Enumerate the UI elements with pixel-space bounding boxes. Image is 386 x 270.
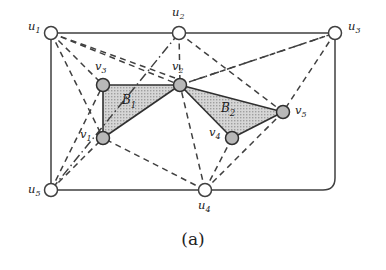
node-u2[interactable] <box>173 27 186 40</box>
dashed-edge-u4-v4 <box>205 138 232 190</box>
node-u3[interactable] <box>329 27 342 40</box>
node-labels-layer: u1u2u3u4u5v1v2v3v4v5 <box>28 5 361 214</box>
node-u4[interactable] <box>199 184 212 197</box>
node-v3[interactable] <box>97 79 110 92</box>
graph-diagram: u1u2u3u4u5v1v2v3v4v5 B1B2 (a) <box>0 0 386 270</box>
node-u5[interactable] <box>45 184 58 197</box>
node-label-u4: u4 <box>198 198 211 214</box>
dashed-edge-u5-v3 <box>51 85 103 190</box>
node-label-u2: u2 <box>172 5 185 21</box>
dashed-edge-u5-v1 <box>51 138 103 190</box>
dashed-edges-layer <box>51 33 335 190</box>
outer-cycle-path <box>51 33 335 190</box>
node-label-v4: v4 <box>209 125 221 141</box>
dashdot-edges-layer <box>51 33 335 190</box>
node-v5[interactable] <box>277 106 290 119</box>
node-label-u1: u1 <box>28 19 41 35</box>
node-u1[interactable] <box>45 27 58 40</box>
dashed-edge-u4-v1 <box>103 138 205 190</box>
dashed-edge-u2-v2 <box>179 33 180 85</box>
dashed-edge-u3-v5 <box>283 33 335 112</box>
node-label-u5: u5 <box>28 182 41 198</box>
node-label-v3: v3 <box>95 59 107 75</box>
node-v2[interactable] <box>174 79 187 92</box>
dashed-edge-u1-v2 <box>51 33 180 85</box>
node-label-v2: v2 <box>172 59 184 75</box>
node-v4[interactable] <box>226 132 239 145</box>
node-label-u3: u3 <box>348 19 361 35</box>
outer-cycle-layer <box>51 33 335 190</box>
node-label-v5: v5 <box>295 103 307 119</box>
figure-container: u1u2u3u4u5v1v2v3v4v5 B1B2 (a) <box>0 0 386 270</box>
node-label-v1: v1 <box>80 127 92 143</box>
caption-layer: (a) <box>181 229 204 249</box>
node-v1[interactable] <box>97 132 110 145</box>
figure-caption: (a) <box>181 229 204 249</box>
